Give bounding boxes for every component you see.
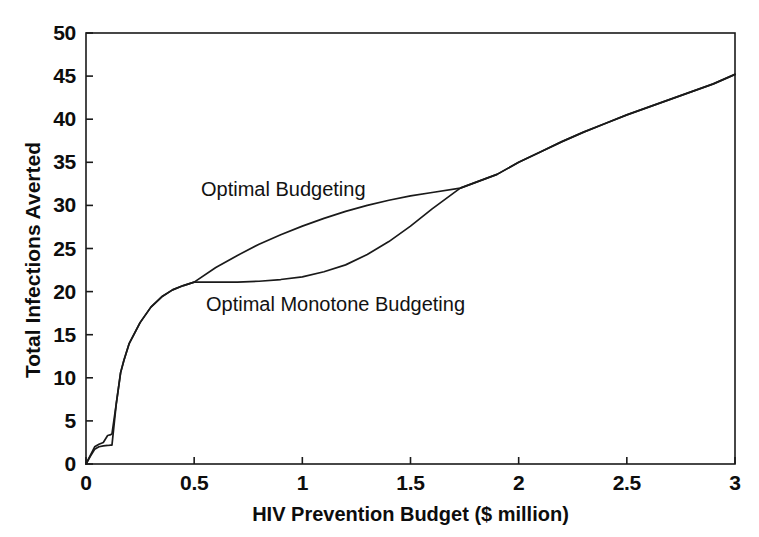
plot-canvas — [0, 0, 759, 537]
y-tick-label: 45 — [20, 64, 76, 88]
y-tick-label: 0 — [20, 452, 76, 476]
x-tick-label: 3 — [729, 471, 740, 495]
series-line-optimal-monotone-budgeting — [86, 74, 735, 464]
x-tick-label: 1 — [297, 471, 308, 495]
plot-border — [86, 33, 735, 464]
tick-marks — [86, 33, 735, 464]
axes-frame — [86, 33, 735, 464]
series-label-optimal-monotone-budgeting: Optimal Monotone Budgeting — [206, 293, 465, 316]
series-label-optimal-budgeting: Optimal Budgeting — [201, 178, 366, 201]
y-tick-label: 50 — [20, 21, 76, 45]
x-axis-title: HIV Prevention Budget ($ million) — [86, 503, 735, 526]
x-tick-label: 1.5 — [396, 471, 424, 495]
series-paths — [86, 74, 735, 464]
series-line-optimal-budgeting — [86, 74, 735, 464]
x-tick-label: 0.5 — [180, 471, 208, 495]
x-tick-label: 0 — [80, 471, 91, 495]
y-axis-title: Total Infections Averted — [21, 110, 45, 410]
y-tick-label: 5 — [20, 409, 76, 433]
chart-figure: 05101520253035404550 00.511.522.53 Total… — [0, 0, 759, 537]
x-tick-label: 2 — [513, 471, 524, 495]
x-tick-label: 2.5 — [613, 471, 641, 495]
